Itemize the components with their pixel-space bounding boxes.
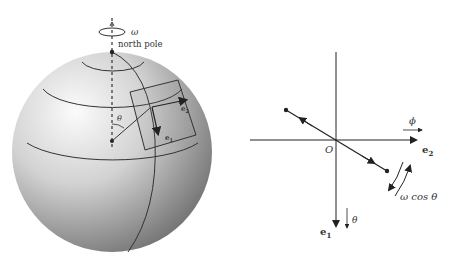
globe: ω north pole θ e2 e1 [12,18,212,252]
pendulum-end-dot [385,169,389,173]
e1-axis-label: e1 [320,226,331,240]
sphere [12,52,212,252]
omega-label: ω [131,27,139,37]
theta-label: θ [117,114,122,123]
diagram-canvas: ω north pole θ e2 e1 O e2 e1 ϕ θ [0,0,459,256]
north-pole-dot [110,50,114,54]
north-pole-label: north pole [118,39,163,49]
plane-diagram: O e2 e1 ϕ θ ω cos θ [250,52,437,240]
precession-arrow-icon [389,162,403,190]
pendulum-end-dot [284,108,288,112]
origin-label: O [325,144,333,155]
omega-cos-theta-label: ω cos θ [400,191,437,202]
theta-direction-label: θ [352,215,358,225]
phi-label: ϕ [409,115,416,126]
swing-arrow-icon [362,156,374,163]
swing-arrow-icon [300,118,312,126]
e2-axis-label: e2 [422,144,433,158]
